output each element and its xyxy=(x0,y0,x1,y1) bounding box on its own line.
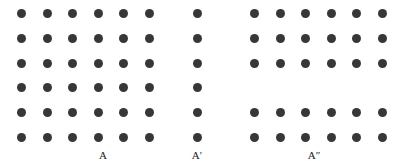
dot xyxy=(68,34,77,43)
dot-array-figure: AA′A″ xyxy=(0,0,395,168)
dot xyxy=(17,83,26,92)
dot xyxy=(17,59,26,68)
dot xyxy=(301,108,310,117)
dot xyxy=(193,83,202,92)
dot xyxy=(352,108,361,117)
dot xyxy=(276,9,285,18)
dot xyxy=(378,59,387,68)
dot xyxy=(94,133,103,142)
dot xyxy=(119,9,128,18)
dot xyxy=(378,133,387,142)
dot xyxy=(327,133,336,142)
dot xyxy=(378,34,387,43)
dot xyxy=(276,34,285,43)
dot xyxy=(119,34,128,43)
dot xyxy=(145,59,154,68)
group-label-2: A′ xyxy=(192,150,202,161)
dot xyxy=(145,34,154,43)
dot xyxy=(145,133,154,142)
dot xyxy=(193,108,202,117)
dot xyxy=(250,9,259,18)
dot xyxy=(119,133,128,142)
dot xyxy=(378,108,387,117)
dot xyxy=(276,59,285,68)
dot xyxy=(301,59,310,68)
dot xyxy=(68,9,77,18)
dot xyxy=(94,9,103,18)
dot xyxy=(43,9,52,18)
dot xyxy=(94,108,103,117)
dot xyxy=(301,34,310,43)
dot xyxy=(43,133,52,142)
dot xyxy=(250,34,259,43)
dot xyxy=(43,83,52,92)
dot xyxy=(17,133,26,142)
dot xyxy=(352,59,361,68)
dot xyxy=(119,59,128,68)
dot xyxy=(301,9,310,18)
dot xyxy=(43,59,52,68)
dot xyxy=(145,9,154,18)
dot xyxy=(17,9,26,18)
dot xyxy=(276,108,285,117)
dot xyxy=(193,9,202,18)
dot xyxy=(250,108,259,117)
dot xyxy=(145,108,154,117)
dot xyxy=(327,34,336,43)
dot xyxy=(352,9,361,18)
dot xyxy=(68,83,77,92)
dot xyxy=(145,83,154,92)
dot xyxy=(193,59,202,68)
dot xyxy=(94,59,103,68)
dot xyxy=(301,133,310,142)
dot xyxy=(250,133,259,142)
dot xyxy=(68,108,77,117)
dot xyxy=(43,34,52,43)
dot xyxy=(119,83,128,92)
dot xyxy=(17,34,26,43)
dot xyxy=(250,59,259,68)
dot xyxy=(276,133,285,142)
dot xyxy=(327,9,336,18)
dot xyxy=(68,59,77,68)
dot xyxy=(94,34,103,43)
dot xyxy=(68,133,77,142)
group-label-1: A xyxy=(99,150,107,161)
dot xyxy=(43,108,52,117)
dot xyxy=(327,59,336,68)
dot xyxy=(94,83,103,92)
dot xyxy=(119,108,128,117)
dot xyxy=(193,133,202,142)
dot xyxy=(378,9,387,18)
group-label-3: A″ xyxy=(308,150,321,161)
dot xyxy=(17,108,26,117)
dot xyxy=(193,34,202,43)
dot xyxy=(352,34,361,43)
dot xyxy=(352,133,361,142)
dot xyxy=(327,108,336,117)
